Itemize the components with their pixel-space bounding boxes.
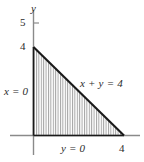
constraint-label-x-equals-0: x = 0	[4, 86, 28, 97]
constraint-label-y-equals-0: y = 0	[61, 143, 85, 154]
x-tick-label-4: 4	[119, 143, 125, 154]
y-tick-label-5: 5	[20, 17, 26, 28]
y-tick-label-4: 4	[20, 41, 26, 52]
feasible-region-figure: y 5 4 x = 0 x + y = 4 y = 0 4	[0, 0, 144, 162]
y-axis-name-label: y	[31, 3, 36, 14]
equation-label-x-plus-y-equals-4: x + y = 4	[80, 78, 123, 89]
